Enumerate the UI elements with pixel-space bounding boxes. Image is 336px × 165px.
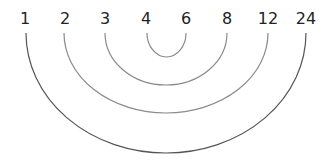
label-12: 12 <box>253 9 283 29</box>
label-3: 3 <box>90 9 120 29</box>
label-6: 6 <box>171 9 201 29</box>
arc-4-6 <box>147 33 186 57</box>
label-4: 4 <box>131 9 161 29</box>
label-8: 8 <box>212 9 242 29</box>
arc-2-12 <box>64 33 268 113</box>
arc-3-8 <box>105 33 227 85</box>
label-2: 2 <box>50 9 80 29</box>
label-1: 1 <box>10 9 40 29</box>
arc-1-24 <box>26 33 306 153</box>
factor-pairs-diagram: 1 2 3 4 6 8 12 24 <box>0 0 336 165</box>
label-24: 24 <box>291 9 321 29</box>
